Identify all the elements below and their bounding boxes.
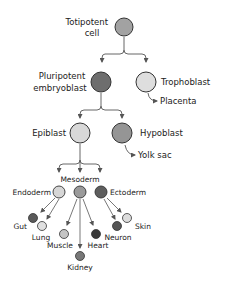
node-lung: Lung — [32, 222, 51, 243]
epiblast-circle — [70, 123, 90, 143]
gut-circle — [29, 214, 38, 223]
gut-label: Gut — [13, 222, 27, 231]
node-endoderm: Endoderm — [13, 186, 65, 198]
muscle-label: Muscle — [47, 241, 73, 250]
node-mesoderm: Mesoderm — [60, 175, 99, 198]
trophoblast-label: Trophoblast — [160, 77, 211, 87]
trophoblast-circle — [136, 72, 156, 92]
node-hypoblast: Hypoblast — [112, 123, 183, 143]
node-placenta: Placenta — [148, 93, 197, 106]
muscle-circle — [60, 230, 69, 239]
node-muscle: Muscle — [47, 230, 73, 251]
node-gut: Gut — [13, 214, 37, 232]
totipotent-label-line2: cell — [85, 28, 100, 38]
node-totipotent-cell: Totipotent cell — [64, 17, 133, 38]
placenta-label: Placenta — [160, 96, 197, 106]
totipotent-cell-circle — [115, 18, 133, 36]
pluripotent-label-line1: Pluripotent — [39, 71, 86, 81]
node-yolk-sac: Yolk sac — [125, 145, 172, 160]
endoderm-label: Endoderm — [13, 188, 51, 197]
node-kidney: Kidney — [67, 252, 93, 273]
skin-circle — [123, 214, 132, 223]
neuron-circle — [113, 222, 122, 231]
kidney-circle — [76, 252, 85, 261]
heart-circle — [92, 230, 101, 239]
node-pluripotent-embryoblast: Pluripotent embryoblast — [33, 71, 111, 93]
branch-totipotent — [102, 37, 146, 62]
neuron-label: Neuron — [104, 233, 131, 242]
lung-circle — [38, 222, 47, 231]
skin-label: Skin — [135, 222, 151, 231]
node-ectoderm: Ectoderm — [95, 186, 146, 198]
ectoderm-circle — [95, 186, 107, 198]
yolk-sac-label: Yolk sac — [137, 150, 172, 160]
ectoderm-label: Ectoderm — [110, 188, 146, 197]
differentiation-diagram: Totipotent cell Pluripotent embryoblast … — [0, 0, 226, 286]
branch-epiblast — [59, 144, 100, 172]
endoderm-circle — [53, 186, 65, 198]
hypoblast-label: Hypoblast — [140, 128, 183, 138]
heart-label: Heart — [88, 241, 109, 250]
pluripotent-label-line2: embryoblast — [33, 83, 87, 93]
kidney-label: Kidney — [67, 263, 93, 272]
pluripotent-circle — [91, 72, 111, 92]
hypoblast-circle — [112, 123, 132, 143]
node-epiblast: Epiblast — [32, 123, 90, 143]
mesoderm-circle — [74, 186, 86, 198]
epiblast-label: Epiblast — [32, 128, 67, 138]
node-skin: Skin — [123, 214, 152, 232]
totipotent-label-line1: Totipotent — [64, 17, 108, 27]
node-neuron: Neuron — [104, 222, 131, 243]
branch-pluripotent — [80, 93, 122, 118]
node-trophoblast: Trophoblast — [136, 72, 211, 92]
mesoderm-label: Mesoderm — [60, 175, 99, 184]
